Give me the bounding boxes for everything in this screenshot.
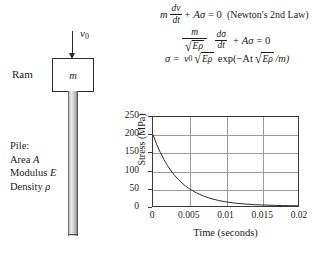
pile-area-line: Area A: [10, 153, 56, 167]
equation-2-body: m √Eρ dσ dt + Aσ = 0: [180, 28, 270, 52]
eq2-mass-over-sqrt: m √Eρ: [182, 28, 207, 52]
pile-bottom-edge: [68, 234, 78, 235]
eq2-frac2-denominator: dt: [215, 40, 226, 51]
radical-icon: √: [255, 51, 262, 65]
equations-block: m dv dt + Aσ = 0 (Newton's 2nd Law) m √E…: [160, 4, 323, 76]
eq1-equals: = 0: [208, 9, 222, 20]
chart-series-stress: [153, 117, 298, 206]
eq1-derivative-fraction: dv dt: [170, 4, 183, 25]
eq2-plus: +: [233, 35, 239, 46]
velocity-subscript: 0: [85, 32, 89, 41]
ram-box: m: [52, 58, 94, 92]
eq3-exp-close: /m): [275, 53, 289, 64]
eq3-v0-subscript: 0: [189, 54, 193, 63]
eq1-term: Aσ: [193, 9, 205, 20]
y-tick-mark: [148, 207, 152, 208]
eq1-denominator: dt: [170, 14, 181, 25]
chart-plot-area: [152, 116, 299, 207]
pile-density-text: Density: [10, 181, 43, 192]
pile-modulus-text: Modulus: [10, 167, 47, 178]
pile-modulus-symbol: E: [50, 167, 56, 178]
y-tick-label: 150: [99, 147, 139, 157]
pile-properties: Pile: Area A Modulus E Density ρ: [10, 139, 56, 193]
eq2-frac2-numerator: dσ: [214, 30, 227, 40]
equation-3-body: σ = v0 √Eρ exp(−At √Eρ /m): [165, 52, 289, 65]
figure-root: v0 Ram m Pile: Area A Modulus E Density …: [0, 0, 323, 260]
equation-3: σ = v0 √Eρ exp(−At √Eρ /m): [160, 52, 323, 76]
equation-2: m √Eρ dσ dt + Aσ = 0: [160, 28, 323, 52]
ram-label: Ram: [12, 68, 33, 80]
radical-icon: √: [194, 51, 201, 65]
pile-density-line: Density ρ: [10, 180, 56, 194]
eq1-plus: +: [185, 9, 191, 20]
ram-mass-symbol: m: [53, 59, 93, 91]
velocity-label: v0: [80, 27, 89, 41]
pile-shaft: [68, 91, 78, 236]
pile-area-text: Area: [10, 154, 30, 165]
eq1-note: (Newton's 2nd Law): [227, 9, 309, 20]
eq2-equals: = 0: [256, 35, 270, 46]
eq3-radicand-1: Eρ: [201, 52, 214, 65]
eq3-sqrt-1: √Eρ: [194, 52, 213, 65]
radical-icon: √: [185, 39, 192, 53]
eq3-radicand-2: Eρ: [261, 52, 274, 65]
pile-density-symbol: ρ: [45, 181, 50, 192]
y-tick-label: 200: [99, 129, 139, 139]
eq3-sqrt-2: √Eρ: [255, 52, 274, 65]
eq3-lhs: σ =: [165, 53, 180, 64]
y-tick-label: 250: [99, 111, 139, 121]
pile-area-symbol: A: [33, 154, 39, 165]
x-tick-label: 0.02: [277, 210, 321, 220]
eq2-numerator: m: [189, 28, 200, 38]
eq2-stress-derivative-fraction: dσ dt: [214, 30, 227, 51]
velocity-arrow-shaft: [72, 31, 73, 55]
eq1-mass: m: [160, 9, 168, 20]
chart-x-axis-label: Time (seconds): [152, 227, 299, 238]
pile-title: Pile:: [10, 139, 56, 153]
y-tick-label: 50: [99, 184, 139, 194]
eq3-exp-open: exp(−At: [218, 53, 253, 64]
equation-1-body: m dv dt + Aσ = 0 (Newton's 2nd Law): [160, 4, 309, 25]
stress-time-chart: Stress (MPa) 050100150200250 00.0050.010…: [118, 100, 323, 260]
pile-modulus-line: Modulus E: [10, 166, 56, 180]
eq1-numerator: dv: [170, 4, 183, 14]
equation-1: m dv dt + Aσ = 0 (Newton's 2nd Law): [160, 4, 323, 28]
eq2-term: Aσ: [242, 35, 254, 46]
y-tick-label: 100: [99, 166, 139, 176]
